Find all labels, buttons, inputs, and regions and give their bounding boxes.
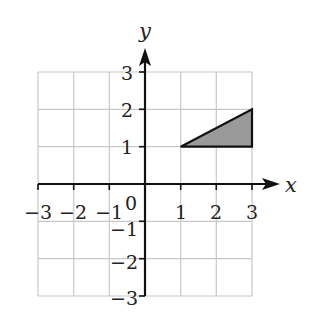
y-tick-label: −3 <box>110 287 138 309</box>
y-tick-label: −2 <box>110 251 138 273</box>
x-axis <box>38 178 280 190</box>
y-axis-label: y <box>138 19 152 43</box>
y-tick-label: 2 <box>121 99 133 121</box>
origin-label: 0 <box>125 192 137 214</box>
coordinate-plane: y x 0 −3 −2 −1 1 2 3 3 2 1 −1 −2 −3 <box>0 0 314 322</box>
x-tick-label: 3 <box>246 201 258 223</box>
y-tick-label: 1 <box>121 136 133 158</box>
y-tick-label: −1 <box>110 218 138 240</box>
y-tick-label: 3 <box>121 62 133 84</box>
x-tick-label: 1 <box>175 201 187 223</box>
x-axis-label: x <box>285 173 297 197</box>
x-tick-label: −3 <box>24 201 52 223</box>
x-tick-label: −2 <box>59 201 87 223</box>
x-tick-label: 2 <box>210 201 222 223</box>
